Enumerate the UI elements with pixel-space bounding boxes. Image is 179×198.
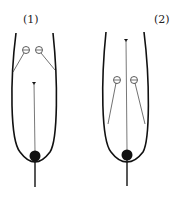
thread-right xyxy=(41,53,55,70)
thread-left xyxy=(13,53,24,72)
base-ball xyxy=(30,151,41,162)
central-rod xyxy=(34,83,35,152)
panel-2-label: (2) xyxy=(154,13,170,26)
central-rod xyxy=(126,40,127,150)
base-ball xyxy=(122,150,133,161)
envelope-outline xyxy=(103,32,149,162)
panel-2: (2) xyxy=(103,13,170,186)
electroscope-diagram: (1) (2) xyxy=(0,0,179,198)
thread-left xyxy=(108,83,116,124)
thread-right xyxy=(135,83,145,124)
panel-1-label: (1) xyxy=(23,13,39,26)
panel-1: (1) xyxy=(12,13,57,187)
